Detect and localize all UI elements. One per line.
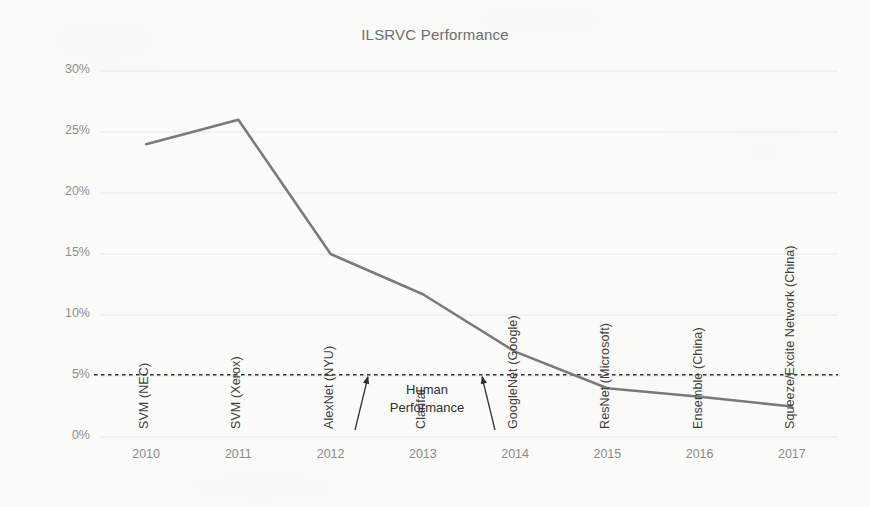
x-tick-label: 2017 bbox=[762, 447, 822, 461]
human-performance-annotation: Human Performance bbox=[372, 381, 482, 417]
x-tick-label: 2010 bbox=[116, 447, 176, 461]
x-tick-label: 2011 bbox=[208, 447, 268, 461]
data-point-label: SVM (Xerox) bbox=[229, 356, 243, 429]
x-tick-label: 2012 bbox=[301, 447, 361, 461]
human-performance-line2: Performance bbox=[372, 399, 482, 417]
data-point-label: Ensemble (China) bbox=[691, 327, 705, 429]
data-point-label: SVM (NEC) bbox=[137, 363, 151, 429]
data-point-label: AlexNet (NYU) bbox=[322, 346, 336, 429]
x-tick-label: 2016 bbox=[670, 447, 730, 461]
data-point-label: Squeeze/Excite Network (China) bbox=[783, 245, 797, 429]
data-point-label: GoogleNet (Google) bbox=[506, 315, 520, 429]
ilsrvc-performance-chart: ILSRVC Performance Top 5 Error % 0%5%10%… bbox=[0, 0, 870, 507]
data-point-label: ResNet (Microsoft) bbox=[598, 323, 612, 429]
x-tick-label: 2015 bbox=[577, 447, 637, 461]
plot-area bbox=[0, 0, 870, 507]
x-tick-label: 2013 bbox=[393, 447, 453, 461]
x-tick-label: 2014 bbox=[485, 447, 545, 461]
human-performance-line1: Human bbox=[372, 381, 482, 399]
